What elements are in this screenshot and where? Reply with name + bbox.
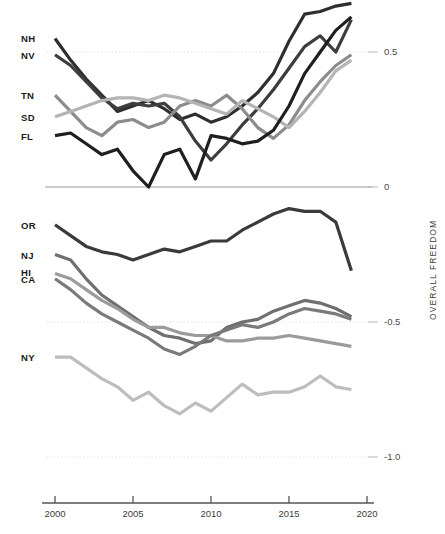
series-label-ca: CA xyxy=(21,274,35,285)
y-tick-label: 0.5 xyxy=(384,46,397,57)
x-tick-label: 2010 xyxy=(200,508,221,519)
x-tick-label: 2000 xyxy=(44,508,65,519)
x-tick-label: 2020 xyxy=(356,508,377,519)
y-tick-label: 0 xyxy=(384,181,389,192)
series-label-nj: NJ xyxy=(21,250,34,261)
x-tick-label: 2005 xyxy=(122,508,143,519)
series-paths-group xyxy=(55,3,351,413)
series-label-nv: NV xyxy=(21,50,35,61)
gridlines-group xyxy=(47,52,372,457)
y-tick-label: -0.5 xyxy=(384,316,400,327)
series-line-ny xyxy=(55,357,351,414)
series-label-fl: FL xyxy=(21,131,33,142)
series-line-nv xyxy=(55,20,351,160)
y-axis-title: OVERALL FREEDOM xyxy=(428,220,438,320)
figure-container: FIGURE 3 Freedom Over Time NHNVTNSDFLORN… xyxy=(0,0,445,534)
series-line-or xyxy=(55,209,351,271)
axis-lines-group xyxy=(42,52,378,503)
line-chart-plot xyxy=(0,0,445,534)
y-tick-label: -1.0 xyxy=(384,451,400,462)
x-tick-label: 2015 xyxy=(278,508,299,519)
series-label-nh: NH xyxy=(21,33,35,44)
series-label-sd: SD xyxy=(21,112,35,123)
series-label-or: OR xyxy=(21,220,36,231)
x-tick-marks-group xyxy=(55,496,367,503)
series-label-ny: NY xyxy=(21,352,35,363)
series-label-tn: TN xyxy=(21,90,34,101)
